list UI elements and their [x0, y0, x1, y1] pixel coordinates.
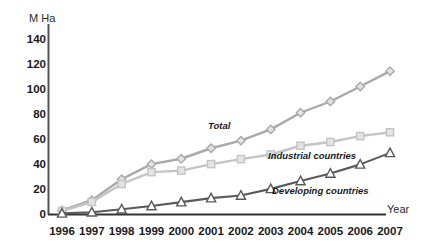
data-point-marker — [356, 82, 364, 90]
data-point-marker — [237, 136, 245, 144]
data-point-marker — [237, 156, 244, 163]
series-label-total: Total — [208, 120, 230, 131]
series-industrial-countries — [58, 129, 393, 215]
data-point-marker — [385, 148, 394, 157]
data-point-marker — [207, 161, 214, 168]
series-label-industrial-countries: Industrial countries — [268, 150, 356, 161]
data-point-marker — [177, 155, 185, 163]
data-point-marker — [178, 167, 185, 174]
data-point-marker — [327, 138, 334, 145]
data-point-marker — [118, 180, 125, 187]
data-point-marker — [386, 67, 394, 75]
data-point-marker — [297, 142, 304, 149]
data-point-marker — [386, 129, 393, 136]
data-point-marker — [326, 97, 334, 105]
series-label-developing-countries: Developing countries — [272, 185, 369, 196]
data-point-marker — [148, 169, 155, 176]
data-point-marker — [88, 198, 95, 205]
line-chart: M Ha Year 020406080100120140 19961997199… — [0, 0, 423, 251]
data-point-marker — [147, 160, 155, 168]
data-point-marker — [357, 133, 364, 140]
data-point-marker — [207, 144, 215, 152]
